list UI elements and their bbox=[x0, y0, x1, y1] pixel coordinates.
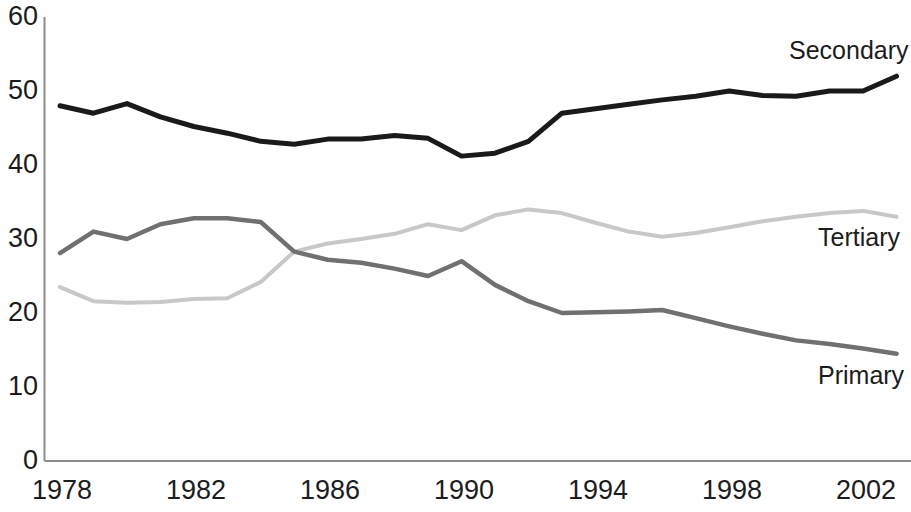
y-tick-label-50: 50 bbox=[0, 77, 38, 104]
series-label-secondary: Secondary bbox=[789, 38, 909, 63]
series-label-primary: Primary bbox=[818, 363, 904, 388]
chart-plot-area bbox=[0, 0, 911, 512]
y-tick-label-40: 40 bbox=[0, 151, 38, 178]
x-tick-label-1990: 1990 bbox=[419, 477, 509, 504]
y-tick-label-30: 30 bbox=[0, 225, 38, 252]
x-tick-label-1986: 1986 bbox=[285, 477, 375, 504]
series-label-tertiary: Tertiary bbox=[818, 225, 900, 250]
y-tick-label-0: 0 bbox=[0, 447, 38, 474]
series-group bbox=[60, 76, 897, 354]
y-tick-label-20: 20 bbox=[0, 299, 38, 326]
y-tick-label-60: 60 bbox=[0, 3, 38, 30]
x-tick-label-1982: 1982 bbox=[151, 477, 241, 504]
x-tick-label-1994: 1994 bbox=[553, 477, 643, 504]
x-tick-label-2002: 2002 bbox=[821, 477, 911, 504]
series-line-secondary bbox=[60, 76, 897, 156]
line-chart: 60 50 40 30 20 10 0 1978 1982 1986 1990 … bbox=[0, 0, 911, 512]
x-tick-label-1998: 1998 bbox=[687, 477, 777, 504]
axes-group bbox=[45, 17, 911, 461]
x-tick-label-1978: 1978 bbox=[17, 477, 107, 504]
series-line-primary bbox=[60, 218, 897, 353]
y-tick-label-10: 10 bbox=[0, 373, 38, 400]
series-line-tertiary bbox=[60, 209, 897, 302]
